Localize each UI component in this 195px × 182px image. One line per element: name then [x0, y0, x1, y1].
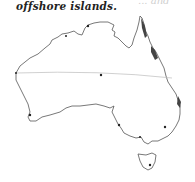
tasmania-outline [138, 153, 156, 170]
top-end-point [87, 25, 89, 27]
australia-map [0, 0, 195, 182]
north-point [65, 35, 67, 37]
latitude-line [16, 72, 172, 78]
southwest-point [29, 114, 31, 116]
northwest-point [15, 72, 17, 74]
location-markers [15, 25, 166, 166]
mainland-coastline [16, 16, 180, 144]
southeast-point-2 [118, 124, 120, 126]
southeast-point-1 [164, 126, 166, 128]
great-barrier-reef-north [141, 18, 147, 38]
south-point [139, 136, 141, 138]
center-dot [100, 74, 102, 76]
tasmania-point [149, 164, 151, 166]
great-barrier-reef-central [151, 46, 158, 60]
